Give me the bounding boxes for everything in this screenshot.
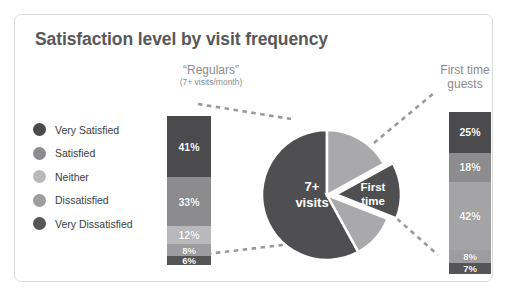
legend-swatch-icon: [33, 217, 46, 230]
connector-left-top: [198, 104, 291, 119]
bar-segment-label: 6%: [182, 255, 196, 266]
pie-center-label-line1: 7+: [305, 179, 320, 194]
pie-slice-label-line2: time: [361, 195, 385, 207]
legend-item: Neither: [33, 165, 133, 189]
right-column-header-line2: guests: [425, 77, 505, 91]
left-column-header-title: “Regulars”: [155, 63, 267, 77]
legend-item-label: Dissatisfied: [55, 194, 109, 206]
legend-swatch-icon: [33, 170, 46, 183]
legend-swatch-icon: [33, 147, 46, 160]
legend-item: Dissatisfied: [33, 189, 133, 213]
bar-segment: 18%: [449, 153, 491, 182]
right-column-header: First time guests: [425, 63, 505, 91]
bar-segment-label: 18%: [459, 161, 480, 173]
bar-segment: 33%: [167, 177, 211, 226]
legend-item: Very Dissatisfied: [33, 212, 133, 236]
bar-segment-label: 12%: [178, 229, 199, 241]
stacked-bar-first-time-guests: 25% 18% 42% 8% 7%: [449, 112, 491, 274]
bar-segment: 6%: [167, 256, 211, 265]
chart-card: Satisfaction level by visit frequency “R…: [14, 14, 493, 282]
bar-segment: 8%: [449, 250, 491, 263]
legend-item: Satisfied: [33, 142, 133, 166]
pie-chart: 7+ visits First time: [255, 119, 420, 271]
bar-segment: 41%: [167, 116, 211, 177]
left-column-header-subtitle: (7+ visits/month): [155, 77, 267, 87]
bar-segment: 7%: [449, 263, 491, 274]
legend: Very Satisfied Satisfied Neither Dissati…: [33, 118, 133, 236]
legend-swatch-icon: [33, 194, 46, 207]
legend-item-label: Very Satisfied: [55, 124, 119, 136]
bar-segment-label: 25%: [459, 126, 480, 138]
page-title: Satisfaction level by visit frequency: [35, 29, 328, 50]
bar-segment-label: 33%: [178, 196, 199, 208]
legend-item-label: Very Dissatisfied: [55, 218, 133, 230]
legend-item: Very Satisfied: [33, 118, 133, 142]
bar-segment: 25%: [449, 112, 491, 153]
stacked-bar-regulars: 41% 33% 12% 8% 6%: [167, 116, 211, 265]
legend-item-label: Neither: [55, 171, 89, 183]
bar-segment: 12%: [167, 226, 211, 244]
pie-slice-label-line1: First: [361, 181, 386, 193]
bar-segment-label: 42%: [459, 210, 480, 222]
legend-item-label: Satisfied: [55, 147, 95, 159]
bar-segment-label: 8%: [463, 251, 477, 262]
right-column-header-line1: First time: [425, 63, 505, 77]
bar-segment-label: 8%: [182, 245, 196, 256]
left-column-header: “Regulars” (7+ visits/month): [155, 63, 267, 87]
legend-swatch-icon: [33, 123, 46, 136]
pie-center-label-line2: visits: [295, 195, 328, 210]
bar-segment-label: 7%: [463, 263, 477, 274]
bar-segment: 42%: [449, 182, 491, 250]
bar-segment-label: 41%: [178, 141, 199, 153]
